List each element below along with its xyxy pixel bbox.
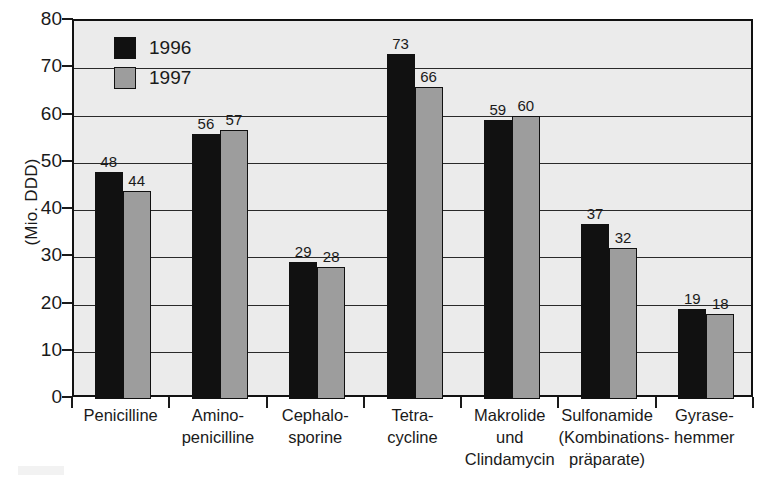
y-axis-tick-label: 30 [16,244,62,266]
legend-swatch-1996 [114,37,136,59]
y-axis-tick-label: 40 [16,197,62,219]
x-axis-category-label: Gyrase-hemmer [656,404,753,448]
legend-label-1997: 1997 [149,67,191,89]
y-axis-tick-label: 60 [16,103,62,125]
bar-value-label: 57 [226,111,243,128]
bar-1997-Amino-penicilline [220,130,248,399]
bar-1996-Tetra-cycline [387,54,415,399]
bar-1996-Amino-penicilline [192,134,220,399]
bar-1996-Gyrase-hemmer [678,309,706,399]
y-axis-tick-label: 20 [16,292,62,314]
legend-label-1996: 1996 [149,37,191,59]
bar-value-label: 19 [684,290,701,307]
x-axis-label-line: Tetra- [364,404,461,426]
bar-1997-Gyrase-hemmer [706,314,734,399]
x-axis-label-line: cycline [364,426,461,448]
bar-value-label: 37 [587,205,604,222]
bar-1997-Penicilline [123,191,151,399]
x-axis-category-label: MakrolideundClindamycin [461,404,558,470]
bar-1996-Makrolide und Clindamycin [484,120,512,399]
bar-1996-Sulfonamide (Kombinationspräparate) [581,224,609,399]
x-axis-label-line: Sulfonamide [558,404,655,426]
x-axis-category-label: Sulfonamide(Kombinations-präparate) [558,404,655,470]
bar-value-label: 56 [198,115,215,132]
x-axis-label-line: präparate) [558,448,655,470]
legend: 1996 1997 [114,33,191,93]
bar-value-label: 44 [128,172,145,189]
legend-item-1997: 1997 [114,63,191,93]
x-axis-label-line: Amino- [169,404,266,426]
x-axis-category-label: Penicilline [72,404,169,426]
bar-1997-Cephalo-sporine [317,267,345,399]
x-axis-label-line: und [461,426,558,448]
x-axis-label-line: sporine [267,426,364,448]
bar-1997-Makrolide und Clindamycin [512,116,540,400]
x-axis-category-labels: PenicillineAmino-penicillineCephalo-spor… [72,404,753,482]
bar-1997-Sulfonamide (Kombinationspräparate) [609,248,637,399]
bar-value-label: 32 [615,229,632,246]
bar-value-label: 18 [712,295,729,312]
x-axis-label-line: (Kombinations- [558,426,655,448]
plot-area: 4856297359371944572866603218 1996 1997 [72,19,753,397]
legend-swatch-1997 [114,67,136,89]
x-axis-label-line: Gyrase- [656,404,753,426]
x-axis-label-line: Makrolide [461,404,558,426]
bar-value-label: 28 [323,248,340,265]
bar-value-label: 48 [100,153,117,170]
bar-1996-Cephalo-sporine [289,262,317,399]
y-axis-tick-label: 80 [16,8,62,30]
bar-value-label: 73 [392,35,409,52]
y-axis-tick-label: 10 [16,339,62,361]
x-axis-label-line: Penicilline [72,404,169,426]
x-axis-category-label: Amino-penicilline [169,404,266,448]
y-axis-tick-label: 0 [16,386,62,408]
x-axis-label-line: Cephalo- [267,404,364,426]
x-axis-category-label: Cephalo-sporine [267,404,364,448]
bar-1996-Penicilline [95,172,123,399]
x-axis-label-line: hemmer [656,426,753,448]
bar-1997-Tetra-cycline [415,87,443,399]
x-axis-category-label: Tetra-cycline [364,404,461,448]
bar-value-label: 60 [517,97,534,114]
y-axis-tick-label: 70 [16,55,62,77]
y-axis-tick-label: 50 [16,150,62,172]
bar-chart: (Mio. DDD) 01020304050607080 48562973593… [0,0,759,482]
legend-item-1996: 1996 [114,33,191,63]
page-artifact [18,466,64,475]
bar-value-label: 29 [295,243,312,260]
x-axis-label-line: Clindamycin [461,448,558,470]
bar-value-label: 66 [420,68,437,85]
bar-value-label: 59 [489,101,506,118]
x-axis-label-line: penicilline [169,426,266,448]
